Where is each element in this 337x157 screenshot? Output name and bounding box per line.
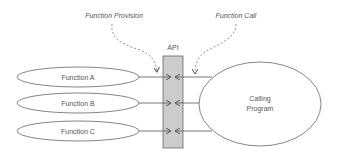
- function-a-label: Function A: [61, 74, 94, 81]
- function-c-label: Function C: [61, 128, 95, 135]
- function-c-node: Function C: [17, 121, 139, 141]
- calling-program-label-line1: Calling: [249, 95, 271, 103]
- api-label: API: [167, 44, 178, 51]
- call-dashed-arrow: [195, 24, 236, 74]
- api-diagram: Function Provision Function Call API Fun…: [0, 0, 337, 157]
- calling-program-node: Calling Program: [199, 62, 321, 146]
- function-b-label: Function B: [61, 100, 95, 107]
- calling-program-label-line2: Program: [247, 105, 274, 113]
- function-call-label: Function Call: [216, 12, 257, 19]
- function-a-node: Function A: [17, 67, 139, 87]
- api-box: [163, 56, 183, 148]
- provision-dashed-arrow: [112, 24, 157, 72]
- function-b-node: Function B: [17, 93, 139, 113]
- function-provision-label: Function Provision: [85, 12, 143, 19]
